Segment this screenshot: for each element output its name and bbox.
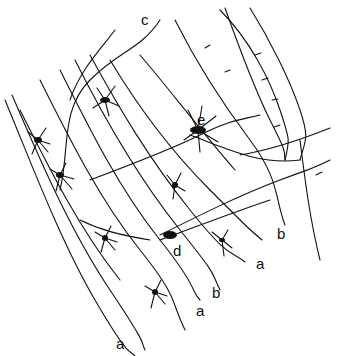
- label-b: b: [277, 226, 285, 241]
- label-b: b: [212, 285, 220, 300]
- cell-body: [152, 289, 158, 295]
- cell-body: [100, 97, 110, 103]
- cell-body: [34, 137, 42, 143]
- cell-body: [219, 238, 225, 242]
- label-a: a: [116, 336, 124, 351]
- label-a: a: [256, 256, 264, 271]
- label-a: a: [196, 303, 204, 318]
- cell-bodies: [0, 0, 337, 356]
- cell-body: [172, 182, 178, 188]
- cell-body: [102, 235, 108, 241]
- cell-body: [56, 172, 64, 178]
- label-e: e: [197, 112, 205, 127]
- label-c: c: [141, 12, 149, 27]
- label-d: d: [173, 243, 181, 258]
- neuron-drawing: c e d b a b a a: [0, 0, 337, 356]
- cell-body-d: [163, 231, 177, 239]
